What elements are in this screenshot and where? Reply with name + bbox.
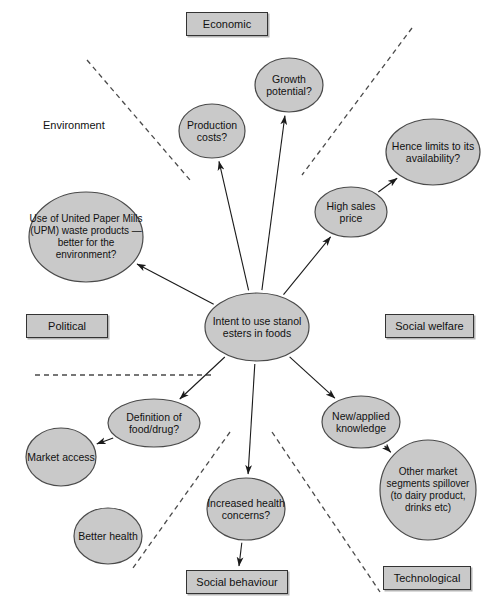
node-ellipse-growth-potential[interactable] bbox=[255, 58, 323, 112]
arrow-intent-to-upm bbox=[137, 264, 214, 304]
node-shapes bbox=[26, 58, 480, 564]
arrow-intent-to-growth bbox=[262, 116, 285, 290]
arrow-to-other-segments bbox=[385, 446, 391, 452]
node-ellipse-market-access[interactable] bbox=[26, 428, 96, 486]
arrow-high-sales-to-hence-limits bbox=[378, 178, 397, 192]
node-ellipse-high-sales-price[interactable] bbox=[315, 187, 387, 237]
category-tag-social-behaviour[interactable]: Social behaviour bbox=[186, 570, 288, 594]
node-ellipse-increased-health[interactable] bbox=[207, 478, 285, 540]
node-ellipse-better-health[interactable] bbox=[74, 508, 142, 564]
category-tag-technological[interactable]: Technological bbox=[383, 566, 471, 590]
diagram-svg bbox=[0, 0, 501, 616]
category-tag-social-welfare[interactable]: Social welfare bbox=[385, 314, 474, 338]
category-tag-environment[interactable]: Environment bbox=[43, 119, 105, 131]
category-tag-economic[interactable]: Economic bbox=[186, 12, 268, 36]
node-ellipse-upm-waste[interactable] bbox=[29, 192, 143, 282]
node-ellipse-hence-limits[interactable] bbox=[386, 119, 480, 185]
node-ellipse-production-costs[interactable] bbox=[179, 104, 245, 158]
category-tag-political[interactable]: Political bbox=[26, 314, 108, 338]
node-ellipse-intent[interactable] bbox=[205, 293, 309, 361]
arrow-intent-to-definition bbox=[180, 357, 225, 399]
diagram-canvas: Intent to use stanol esters in foodsProd… bbox=[0, 0, 501, 616]
divider-lower-right bbox=[272, 432, 380, 592]
node-ellipse-new-knowledge[interactable] bbox=[322, 396, 400, 448]
node-ellipse-definition[interactable] bbox=[108, 399, 200, 447]
arrow-intent-to-production-costs bbox=[219, 161, 249, 290]
arrow-intent-to-increased-health bbox=[248, 364, 255, 474]
node-ellipse-other-segments[interactable] bbox=[380, 440, 476, 540]
arrow-intent-to-new-knowledge bbox=[290, 357, 335, 398]
arrow-definition-to-market bbox=[97, 438, 113, 444]
arrow-increased-health-to-social bbox=[239, 543, 242, 566]
arrow-intent-to-high-sales bbox=[284, 237, 331, 295]
